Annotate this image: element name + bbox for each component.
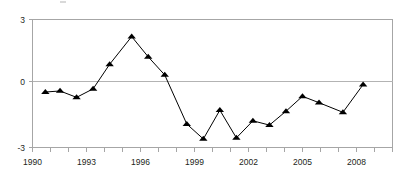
data-point-marker [359,81,367,86]
data-point-marker [298,93,306,98]
chart-canvas: 3 0 -3 1990 1993 1996 1999 2002 2005 200… [0,0,404,183]
data-point-marker [56,88,64,93]
data-series-layer [41,33,367,140]
data-point-marker [183,121,191,126]
data-point-marker [72,94,80,99]
data-point-marker [249,118,257,123]
data-point-marker [216,107,224,112]
data-point-marker [127,33,135,38]
x-axis-tick-label-2005: 2005 [293,157,312,167]
y-axis-tick-label-3: 3 [20,15,25,25]
y-tick-marks [29,20,33,148]
x-axis-tick-label-1999: 1999 [185,157,204,167]
data-point-marker [89,86,97,91]
x-axis-tick-label-2002: 2002 [239,157,258,167]
y-axis-tick-label-0: 0 [20,77,25,87]
plot-frame [33,20,393,148]
data-point-marker [315,100,323,105]
data-point-marker [144,54,152,59]
data-point-marker [161,72,169,77]
y-axis-tick-label-neg3: -3 [17,143,25,153]
x-tick-marks [33,148,393,152]
data-point-marker [105,61,113,66]
x-axis-tick-label-1996: 1996 [131,157,150,167]
scan-artifact [60,1,66,3]
x-axis-tick-label-1993: 1993 [77,157,96,167]
x-axis-tick-label-1990: 1990 [23,157,42,167]
line-chart: 3 0 -3 1990 1993 1996 1999 2002 2005 200… [0,0,404,183]
data-point-marker [339,109,347,114]
x-axis-tick-label-2008: 2008 [347,157,366,167]
